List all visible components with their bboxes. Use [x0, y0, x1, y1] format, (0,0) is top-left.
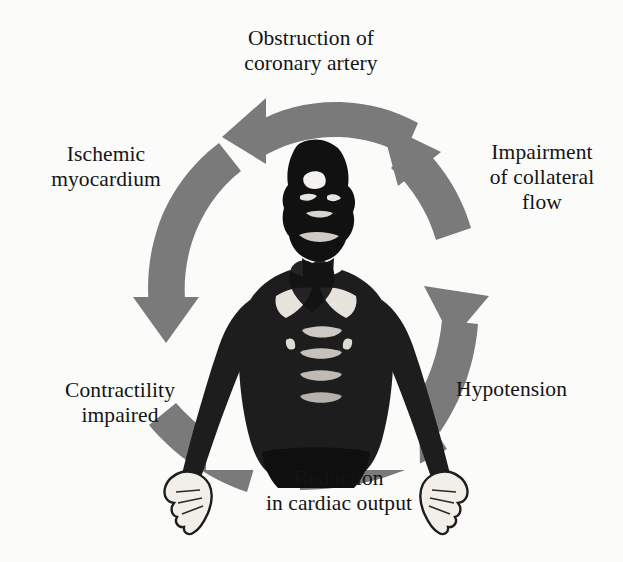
label-ischemic-myocardium: Ischemic myocardium	[26, 142, 186, 192]
label-reduction-in-cardiac-output: Reduction in cardiac output	[232, 466, 446, 516]
label-obstruction-of-coronary-artery: Obstruction of coronary artery	[218, 26, 404, 76]
arrow-impairment-to-obstruction	[381, 123, 471, 240]
cycle-diagram: Obstruction of coronary artery Impairmen…	[0, 0, 623, 562]
label-impairment-of-collateral-flow: Impairment of collateral flow	[466, 140, 618, 215]
label-hypotension: Hypotension	[456, 377, 616, 402]
label-contractility-impaired: Contractility impaired	[36, 378, 204, 428]
